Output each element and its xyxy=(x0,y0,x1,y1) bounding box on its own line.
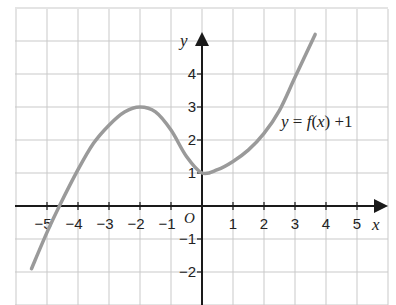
x-tick-label: 3 xyxy=(291,215,299,232)
x-tick-label: −2 xyxy=(127,215,144,232)
y-tick-label: −2 xyxy=(179,263,196,280)
x-axis-arrow-icon xyxy=(374,199,388,213)
x-tick-label: −1 xyxy=(158,215,175,232)
x-tick-label: 4 xyxy=(322,215,330,232)
y-tick-label: 3 xyxy=(188,98,196,115)
y-axis-label: y xyxy=(178,31,188,50)
x-tick-label: 5 xyxy=(353,215,361,232)
function-graph: −5−4−3−2−112345−2−11234 x y O y = f(x) +… xyxy=(0,0,396,305)
x-axis-label: x xyxy=(371,215,380,234)
axes xyxy=(15,32,388,305)
y-tick-label: 2 xyxy=(188,131,196,148)
x-tick-label: −4 xyxy=(65,215,82,232)
y-axis-arrow-icon xyxy=(195,32,209,46)
origin-label: O xyxy=(184,210,195,226)
y-tick-label: −1 xyxy=(179,230,196,247)
function-label: y = f(x) +1 xyxy=(279,112,353,131)
function-curve xyxy=(32,34,316,268)
x-tick-label: 2 xyxy=(260,215,268,232)
x-tick-label: 1 xyxy=(229,215,237,232)
x-tick-label: −3 xyxy=(96,215,113,232)
y-tick-label: 4 xyxy=(188,65,196,82)
